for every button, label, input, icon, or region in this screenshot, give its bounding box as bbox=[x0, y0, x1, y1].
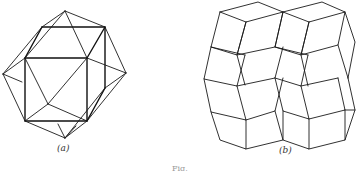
figure-canvas bbox=[0, 0, 363, 171]
rhombic-tiling-drawing bbox=[204, 2, 355, 149]
panel-a-label: (a) bbox=[57, 143, 69, 153]
panel-b-label: (b) bbox=[279, 145, 292, 155]
polyhedron-drawing bbox=[3, 11, 126, 138]
figure-caption: Fig. bbox=[172, 164, 188, 171]
